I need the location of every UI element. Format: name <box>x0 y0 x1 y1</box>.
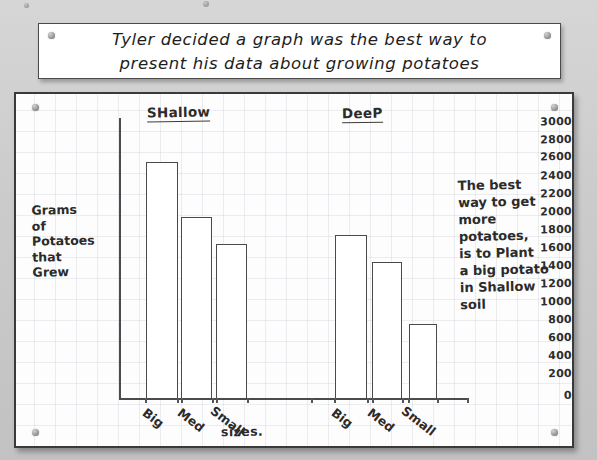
bar-shallow-med <box>181 217 212 398</box>
y-tick-label: 2800 <box>476 133 572 149</box>
x-axis-title: sizes. <box>221 424 263 440</box>
y-tick-label: 200 <box>476 367 572 383</box>
y-tick-label: 2600 <box>476 150 572 166</box>
x-tick-label-deep-med: Med <box>365 405 398 435</box>
group-heading-deep: DeeP <box>342 105 383 124</box>
conclusion-note: The best way to get more potatoes, is to… <box>458 175 573 313</box>
board-speck-left <box>24 3 29 8</box>
graph-poster: 3000 2800 2600 2400 2200 2000 1800 1600 … <box>14 92 574 448</box>
y-tick-label: 600 <box>476 331 572 347</box>
y-axis-title: Grams of Potatoes that Grew <box>31 201 110 280</box>
screw-icon-caption-right <box>544 32 551 39</box>
x-tick-label-deep-small: Small <box>399 403 439 439</box>
bar-shallow-big <box>146 162 178 398</box>
x-tick-label-shallow-big: Big <box>140 405 167 431</box>
screw-icon-caption-left <box>48 32 55 39</box>
bar-deep-small <box>409 324 437 398</box>
x-tick-label-deep-big: Big <box>329 405 356 431</box>
bar-chart: 3000 2800 2600 2400 2200 2000 1800 1600 … <box>16 94 572 446</box>
x-axis-line <box>119 398 469 400</box>
y-tick-label: 3000 <box>476 115 572 131</box>
board-speck-right <box>203 1 209 7</box>
x-tick-label-shallow-med: Med <box>175 405 208 435</box>
bar-shallow-small <box>216 244 247 398</box>
caption-card: Tyler decided a graph was the best way t… <box>38 23 561 79</box>
bar-deep-big <box>335 235 367 398</box>
y-tick-label: 0 <box>476 389 572 405</box>
y-tick-label: 800 <box>476 313 572 329</box>
mount-board: Tyler decided a graph was the best way t… <box>0 0 597 460</box>
y-tick-label: 400 <box>476 349 572 365</box>
y-axis-line <box>119 118 121 400</box>
group-heading-shallow: SHallow <box>147 103 211 122</box>
caption-text: Tyler decided a graph was the best way t… <box>39 28 560 76</box>
bar-deep-med <box>372 262 402 398</box>
